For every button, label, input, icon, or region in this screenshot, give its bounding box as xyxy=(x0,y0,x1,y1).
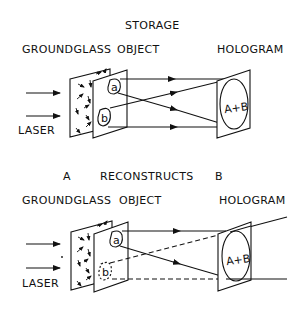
svg-text:b: b xyxy=(102,266,109,279)
hologram-plate: A+B xyxy=(217,70,250,138)
laser-beam-arrows xyxy=(26,93,60,116)
hologram-label: HOLOGRAM xyxy=(217,43,283,56)
reconstruct-title: RECONSTRUCTS xyxy=(100,170,194,183)
reconstruct-panel: A RECONSTRUCTS B GROUNDGLASS OBJECT HOLO… xyxy=(22,170,287,292)
hologram-diagram: STORAGE GROUNDGLASS OBJECT HOLOGRAM LASE… xyxy=(0,0,300,312)
storage-panel: STORAGE GROUNDGLASS OBJECT HOLOGRAM LASE… xyxy=(18,19,283,138)
object-label: OBJECT xyxy=(117,43,160,56)
laser-label: LASER xyxy=(18,124,55,137)
hologram-label: HOLOGRAM xyxy=(219,194,285,207)
svg-text:a: a xyxy=(113,234,120,247)
light-rays xyxy=(110,217,287,279)
object-plate: a b xyxy=(94,222,128,292)
reconstruct-title-b: B xyxy=(215,170,223,183)
storage-title: STORAGE xyxy=(125,19,179,32)
hologram-plate: A+B xyxy=(218,222,251,291)
groundglass-label: GROUNDGLASS xyxy=(22,43,111,56)
object-label: OBJECT xyxy=(119,194,162,207)
object-plate: a b xyxy=(93,70,127,138)
svg-text:b: b xyxy=(101,112,108,125)
laser-beam-arrows xyxy=(26,244,63,268)
svg-text:a: a xyxy=(111,81,118,94)
reconstruct-title-a: A xyxy=(63,170,71,183)
laser-label: LASER xyxy=(22,277,59,290)
groundglass-label: GROUNDGLASS xyxy=(22,194,111,207)
